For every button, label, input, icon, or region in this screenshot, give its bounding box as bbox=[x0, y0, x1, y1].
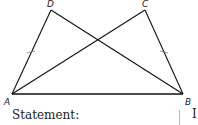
vertex-label-d: D bbox=[47, 0, 54, 9]
vertex-label-c: C bbox=[142, 0, 149, 9]
vertex-label-b: B bbox=[185, 97, 191, 107]
statement-label: Statement: bbox=[12, 108, 79, 122]
column-divider bbox=[179, 110, 180, 125]
trapezoid-diagram: D C A B bbox=[0, 0, 198, 125]
vertex-label-a: A bbox=[3, 97, 10, 107]
reason-column-text: I bbox=[192, 107, 197, 121]
